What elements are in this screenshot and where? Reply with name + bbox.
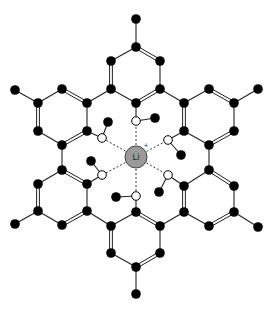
carbon-atom: [131, 262, 141, 272]
carbon-atom: [111, 192, 121, 202]
carbon-atom: [155, 248, 165, 258]
carbon-atom: [82, 126, 92, 136]
carbon-atom: [131, 289, 141, 299]
carbon-atom: [33, 179, 43, 189]
carbon-atom: [155, 84, 165, 94]
carbon-atom: [57, 84, 67, 94]
carbon-atom: [154, 187, 164, 197]
oxygen-atom: [164, 136, 173, 145]
carbon-atom: [253, 222, 263, 232]
carbon-atom: [57, 220, 67, 230]
carbon-atom: [33, 98, 43, 108]
carbon-atom: [82, 206, 92, 216]
carbon-atom: [82, 179, 92, 189]
carbon-atom: [179, 181, 189, 191]
carbon-atom: [229, 126, 239, 136]
carbon-atom: [82, 98, 92, 108]
carbon-atom: [57, 165, 67, 175]
carbon-atom: [33, 206, 43, 216]
carbon-atom: [86, 156, 96, 166]
carbon-atom: [176, 150, 186, 160]
carbon-atom: [229, 98, 239, 108]
carbon-atom: [10, 219, 20, 229]
carbon-atom: [253, 84, 263, 94]
carbon-atom: [106, 56, 116, 66]
carbon-atom: [179, 98, 189, 108]
carbon-atom: [10, 85, 20, 95]
carbon-atom: [106, 84, 116, 94]
charge-label: +: [144, 142, 148, 149]
carbon-atom: [204, 165, 214, 175]
carbon-atom: [103, 117, 113, 127]
oxygen-atom: [98, 171, 107, 180]
carbon-atom: [131, 14, 141, 24]
oxygen-atom: [132, 117, 141, 126]
oxygen-atom: [132, 192, 141, 201]
oxygen-atom: [164, 171, 173, 180]
oxygen-atom: [98, 134, 107, 143]
carbon-atom: [229, 181, 239, 191]
lithium-ion: Li +: [125, 142, 148, 168]
carbon-atom: [57, 140, 67, 150]
carbon-atom: [155, 221, 165, 231]
carbon-atom: [204, 84, 214, 94]
carbon-atom: [131, 98, 141, 108]
carbon-atom: [131, 207, 141, 217]
carbon-atom: [33, 126, 43, 136]
carbon-atom: [204, 221, 214, 231]
carbon-atom: [131, 42, 141, 52]
carbon-atom: [155, 56, 165, 66]
carbon-atom: [204, 140, 214, 150]
carbon-atom: [229, 207, 239, 217]
lithium-label: Li: [132, 152, 139, 162]
carbon-atom: [179, 126, 189, 136]
carbon-atom: [150, 113, 160, 123]
molecular-diagram: Li +: [0, 0, 279, 314]
carbon-atom: [106, 248, 116, 258]
carbon-atom: [106, 221, 116, 231]
carbon-atom: [179, 207, 189, 217]
